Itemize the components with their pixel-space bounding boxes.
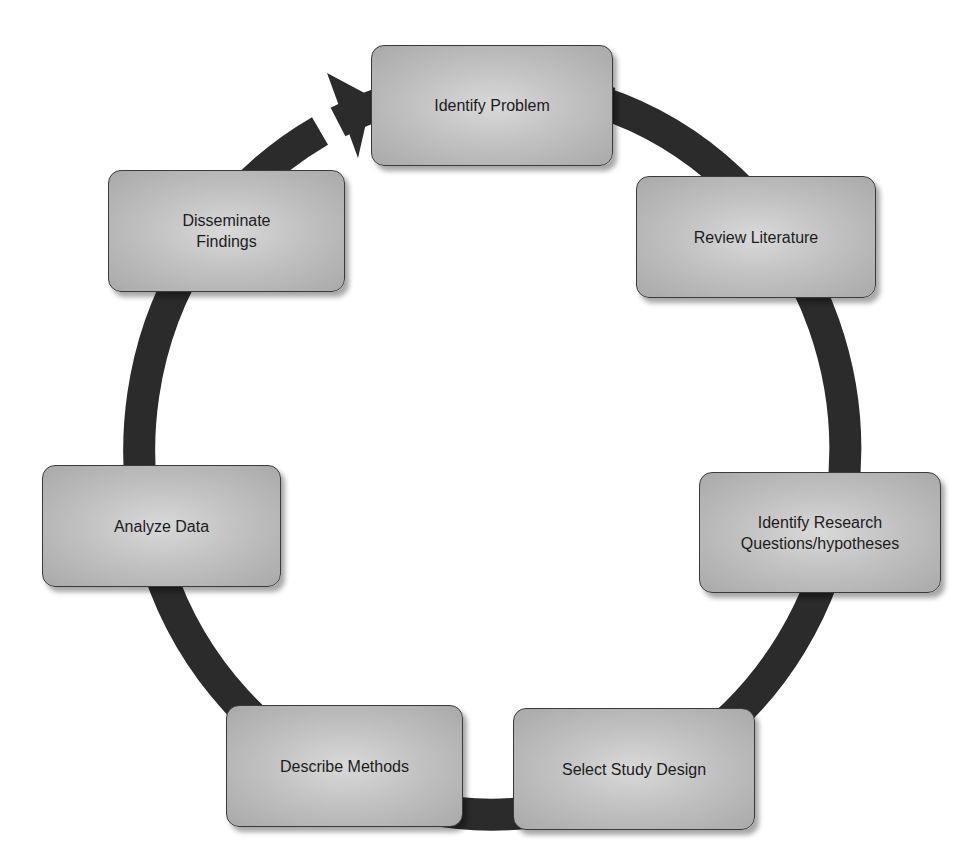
step-label: Disseminate Findings — [182, 210, 270, 252]
step-box-select-study-design: Select Study Design — [513, 708, 755, 830]
step-box-disseminate-findings: Disseminate Findings — [108, 170, 345, 292]
step-box-identify-problem: Identify Problem — [371, 45, 613, 166]
step-box-identify-research-questions: Identify Research Questions/hypotheses — [699, 472, 941, 593]
step-label: Select Study Design — [562, 759, 706, 780]
step-box-describe-methods: Describe Methods — [226, 705, 463, 827]
step-box-review-literature: Review Literature — [636, 176, 876, 298]
step-label: Describe Methods — [280, 756, 409, 777]
step-label: Review Literature — [694, 227, 819, 248]
step-label: Analyze Data — [114, 516, 209, 537]
step-label: Identify Research Questions/hypotheses — [741, 512, 899, 554]
step-label: Identify Problem — [434, 95, 550, 116]
step-box-analyze-data: Analyze Data — [42, 465, 281, 587]
arrowhead-icon — [327, 73, 372, 158]
